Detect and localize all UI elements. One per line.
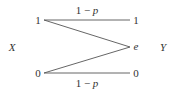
output-variable-label: Y — [160, 41, 168, 53]
erasure-channel-diagram: 1 − p 1 − p 1 0 1 e 0 X Y — [0, 0, 178, 94]
output-node-0: 0 — [133, 67, 139, 79]
input-node-0: 0 — [35, 67, 41, 79]
edge-0-to-e — [44, 47, 130, 73]
edge-1-to-e — [44, 20, 130, 47]
input-variable-label: X — [8, 41, 17, 53]
output-node-1: 1 — [133, 14, 139, 26]
edge-label-top: 1 − p — [76, 4, 99, 16]
edge-label-bottom: 1 − p — [76, 77, 99, 89]
input-node-1: 1 — [35, 14, 41, 26]
diagram-svg: 1 − p 1 − p 1 0 1 e 0 X Y — [0, 0, 178, 94]
output-node-e: e — [134, 40, 139, 52]
